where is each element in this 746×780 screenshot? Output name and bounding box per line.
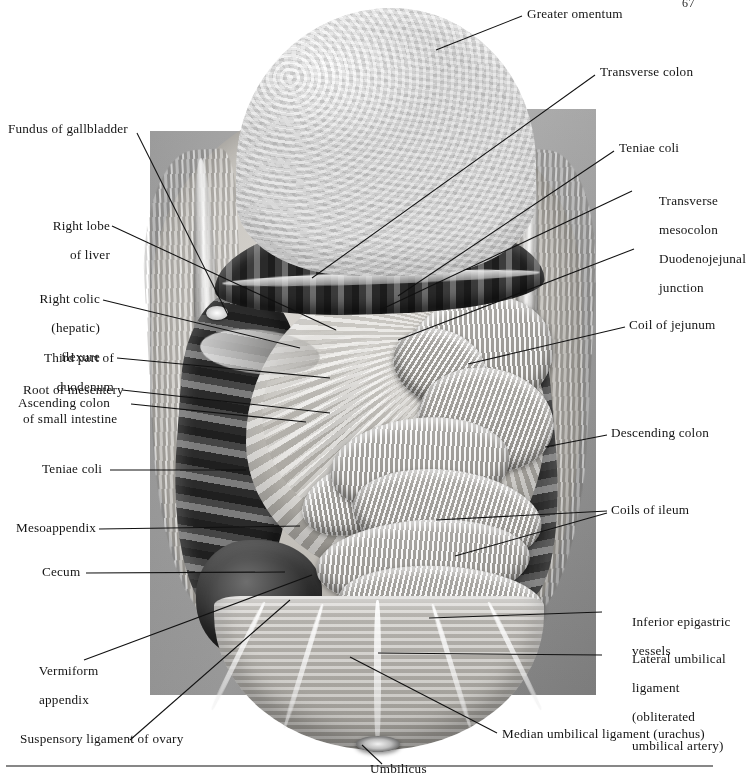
label-line: Duodenojejunal — [659, 251, 746, 266]
label-line: Transverse — [659, 193, 718, 208]
label-ascending-colon: Ascending colon — [18, 396, 110, 410]
label-descending-colon: Descending colon — [611, 426, 709, 440]
label-umbilicus: Umbilicus — [370, 762, 427, 776]
label-teniae-coli-right: Teniae coli — [619, 141, 679, 155]
label-line: mesocolon — [659, 222, 718, 237]
label-line: Right lobe — [53, 218, 110, 233]
leader-coils-of-ileum-a — [436, 511, 607, 520]
label-line: Third part of — [44, 350, 114, 365]
leader-lateral-umbilical-ligament — [378, 653, 602, 655]
leader-ascending-colon — [131, 404, 306, 422]
label-line: Right colic — [40, 291, 100, 306]
label-line: junction — [659, 280, 704, 295]
label-transverse-colon: Transverse colon — [600, 65, 693, 79]
leader-suspensory-ligament-of-ovary — [130, 600, 290, 740]
label-line: (obliterated — [632, 709, 695, 724]
leader-greater-omentum — [436, 16, 522, 50]
anatomical-illustration: Fundus of gallbladder Right lobe of live… — [0, 0, 719, 760]
label-line: Inferior epigastric — [632, 614, 731, 629]
leader-duodenojejunal-junction — [398, 249, 634, 340]
leader-median-umbilical-ligament — [350, 657, 497, 733]
leader-vermiform-appendix — [84, 575, 312, 660]
leader-fundus-of-gallbladder — [137, 133, 228, 315]
leader-cecum — [86, 572, 285, 573]
leader-transverse-colon — [312, 75, 595, 278]
label-coils-of-ileum: Coils of ileum — [611, 503, 689, 517]
label-coil-of-jejunum: Coil of jejunum — [629, 318, 716, 332]
label-line: ligament — [632, 680, 680, 695]
leader-mesoappendix — [99, 526, 300, 529]
label-line: Lateral umbilical — [632, 651, 726, 666]
label-right-lobe-of-liver: Right lobe of liver — [0, 205, 110, 277]
leader-inferior-epigastric-vessels — [429, 612, 602, 618]
leader-teniae-coli-right — [398, 151, 614, 296]
leader-descending-colon — [545, 435, 607, 447]
label-suspensory-ligament-of-ovary: Suspensory ligament of ovary — [20, 732, 183, 746]
label-mesoappendix: Mesoappendix — [16, 521, 96, 535]
label-greater-omentum: Greater omentum — [527, 7, 623, 21]
label-median-umbilical-ligament: Median umbilical ligament (urachus) — [502, 727, 705, 741]
label-line: of small intestine — [23, 411, 117, 426]
leader-transverse-mesocolon — [380, 191, 632, 310]
leader-right-colic-flexure — [103, 300, 300, 348]
label-vermiform-appendix: Vermiform appendix — [18, 650, 98, 722]
label-line: (hepatic) — [51, 320, 100, 335]
label-lateral-umbilical-ligament: Lateral umbilical ligament (obliterated … — [611, 638, 726, 768]
leader-right-lobe-of-liver — [112, 226, 336, 330]
label-teniae-coli-left: Teniae coli — [42, 462, 102, 476]
label-line: Vermiform — [39, 663, 99, 678]
leader-coil-of-jejunum — [468, 327, 625, 364]
label-line: of liver — [70, 247, 110, 262]
label-duodenojejunal-junction: Duodenojejunal junction — [638, 238, 746, 310]
label-line: appendix — [39, 692, 89, 707]
leader-coils-of-ileum-b — [455, 513, 607, 556]
label-cecum: Cecum — [42, 565, 80, 579]
leader-root-of-mesentery — [122, 390, 330, 413]
leader-third-part-of-duodenum — [117, 358, 330, 378]
label-fundus-of-gallbladder: Fundus of gallbladder — [8, 122, 128, 136]
